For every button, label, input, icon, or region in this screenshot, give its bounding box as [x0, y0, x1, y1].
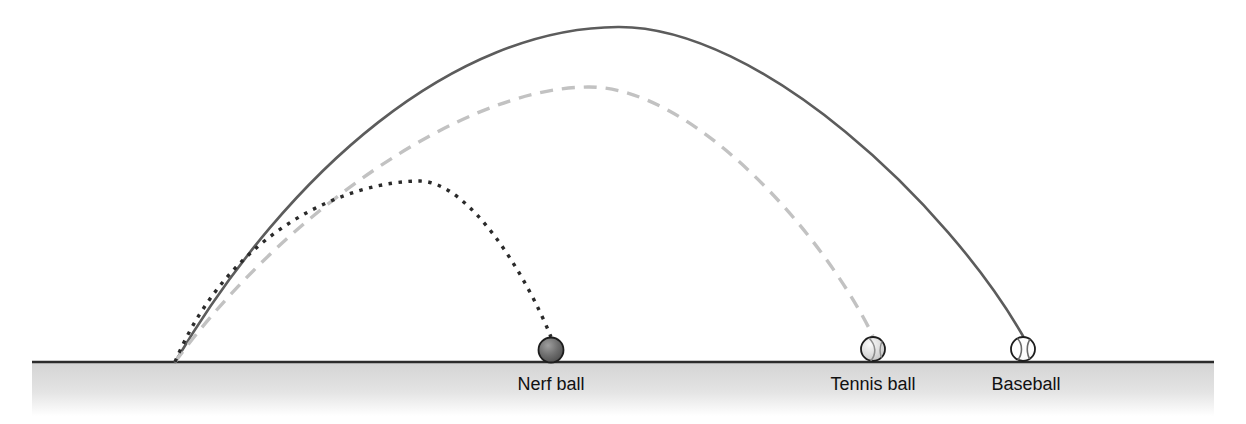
- nerf-ball-label: Nerf ball: [517, 374, 584, 394]
- baseball-label: Baseball: [991, 374, 1060, 394]
- figure-canvas: Nerf ball Tennis ball Baseball: [0, 0, 1246, 424]
- baseball-trajectory: [175, 27, 1023, 362]
- nerf-trajectory: [175, 181, 551, 362]
- nerf-ball: [539, 338, 564, 363]
- projectile-trajectory-figure: Nerf ball Tennis ball Baseball: [0, 0, 1246, 424]
- tennis-ball-label: Tennis ball: [830, 374, 915, 394]
- baseball: [1011, 337, 1035, 361]
- nerf-ball-body: [539, 338, 564, 363]
- tennis-trajectory: [175, 87, 873, 362]
- tennis-ball: [861, 337, 885, 363]
- baseball-body: [1011, 337, 1035, 361]
